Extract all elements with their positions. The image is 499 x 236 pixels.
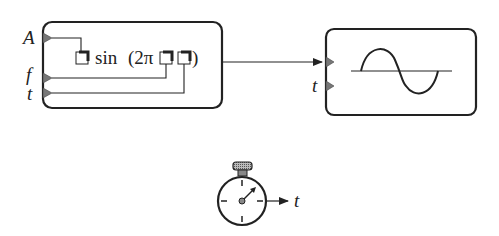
formula-sin: sin [95,47,118,68]
input-label-time: t [27,83,33,104]
slot-time [178,52,190,64]
slot-amplitude [76,52,88,64]
formula-close: ) [192,47,198,69]
stopwatch-icon [218,162,266,225]
input-label-frequency: f [26,64,34,85]
scope-display-block[interactable]: t [312,29,476,115]
clock-output-label: t [294,190,300,211]
diagram-canvas: A f t sin (2π ) [0,0,499,236]
input-label-amplitude: A [21,27,35,48]
slot-frequency [160,52,172,64]
display-input-label-time: t [312,75,318,96]
sine-generator-block[interactable]: A f t sin (2π ) [21,22,222,108]
formula-open: (2π [128,47,154,69]
